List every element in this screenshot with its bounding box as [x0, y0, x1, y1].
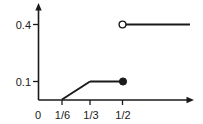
y-tick-label-low: 0.1: [16, 76, 31, 88]
plot-canvas: 0.4 0.1 0 1/6 1/3 1/2: [0, 0, 203, 124]
y-axis-arrowhead: [35, 3, 41, 11]
piecewise-function-plot: 0.4 0.1 0 1/6 1/3 1/2: [0, 0, 203, 124]
y-tick-label-high: 0.4: [16, 19, 31, 31]
x-axis-arrowhead: [187, 97, 195, 103]
open-circle-marker: [119, 21, 126, 28]
x-tick-label-1-3: 1/3: [83, 109, 98, 121]
x-tick-label-1-2: 1/2: [115, 109, 130, 121]
x-tick-label-0: 0: [35, 109, 41, 121]
data-segment-ramp: [62, 82, 90, 100]
closed-circle-marker: [119, 78, 126, 85]
x-tick-label-1-6: 1/6: [55, 109, 70, 121]
